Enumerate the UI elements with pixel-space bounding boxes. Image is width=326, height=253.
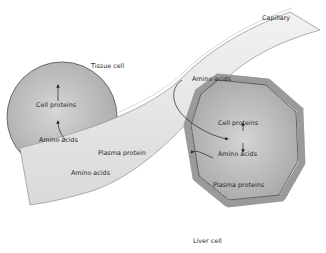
label-liver-plasma-proteins: Plasma proteins <box>213 182 264 188</box>
label-liver-cell-proteins: Cell proteins <box>218 120 258 126</box>
label-capillary: Capillary <box>262 15 290 21</box>
label-capillary-amino-acids-left: Amino acids <box>71 170 110 176</box>
label-tissue-cell-proteins: Cell proteins <box>36 102 76 108</box>
label-liver-amino-acids: Amino acids <box>218 151 257 157</box>
label-capillary-amino-acids-top: Amino acids <box>192 76 231 82</box>
label-tissue-cell: Tissue cell <box>91 63 124 69</box>
label-tissue-amino-acids: Amino acids <box>39 137 78 143</box>
diagram-canvas: Capillary Tissue cell Cell proteins Amin… <box>0 0 326 253</box>
label-liver-cell: Liver cell <box>193 238 222 244</box>
label-plasma-protein: Plasma protein <box>98 150 146 156</box>
